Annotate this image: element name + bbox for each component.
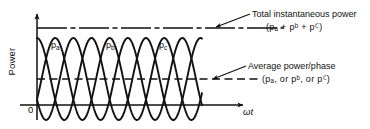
x-axis-title: ωt bbox=[243, 106, 253, 117]
origin-label: 0 bbox=[28, 104, 33, 115]
total-power-leader-line bbox=[216, 14, 250, 27]
annotation-total-title: Total instantaneous power bbox=[252, 9, 357, 19]
curve-label-pb-subscript: b bbox=[111, 44, 115, 51]
y-axis-title: Power bbox=[6, 40, 17, 84]
curve-label-pc: pc bbox=[159, 40, 167, 50]
annotation-total-formula: (pₐ + pᵇ + pꟲ) bbox=[252, 21, 357, 34]
average-power-leader-line bbox=[213, 66, 246, 79]
reference-lines-group bbox=[37, 28, 284, 79]
annotation-average-formula: (pₐ, or pᵇ, or pꟲ) bbox=[248, 73, 335, 86]
annotation-average-power-per-phase: Average power/phase (pₐ, or pᵇ, or pꟲ) bbox=[248, 60, 335, 86]
curve-label-pc-subscript: c bbox=[164, 44, 167, 51]
annotation-average-title: Average power/phase bbox=[248, 61, 335, 71]
leader-lines-group bbox=[213, 14, 250, 79]
curve-label-pa-subscript: a bbox=[56, 44, 60, 51]
annotation-total-instantaneous-power: Total instantaneous power (pₐ + pᵇ + pꟲ) bbox=[252, 8, 357, 34]
power-waveform-figure: Power ωt 0 pa pb pc Total instantaneous … bbox=[0, 0, 370, 129]
curve-label-pa: pa bbox=[51, 40, 60, 50]
curve-label-pb: pb bbox=[106, 40, 115, 50]
